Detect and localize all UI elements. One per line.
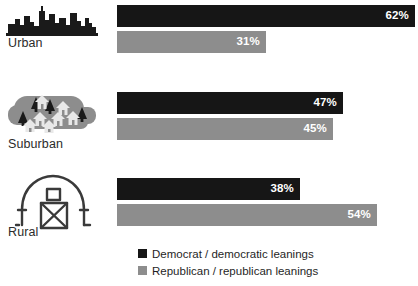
bar-rural-democrat: 38% xyxy=(117,178,300,200)
bar-rural-republican: 54% xyxy=(117,204,377,226)
bar-value-urban-democrat: 62% xyxy=(385,10,415,22)
barn-icon xyxy=(6,173,106,231)
legend-item-democrat: Democrat / democratic leanings xyxy=(138,245,318,262)
legend-label-republican: Republican / republican leanings xyxy=(152,265,318,277)
legend-label-democrat: Democrat / democratic leanings xyxy=(152,248,314,260)
bar-value-rural-democrat: 38% xyxy=(270,183,300,195)
category-label-rural: Rural xyxy=(8,225,38,239)
bar-value-suburban-democrat: 47% xyxy=(313,97,343,109)
legend-swatch-democrat-icon xyxy=(138,249,147,258)
category-label-urban: Urban xyxy=(8,36,43,50)
category-label-suburban: Suburban xyxy=(8,137,63,151)
suburban-houses-icon xyxy=(6,89,106,135)
bar-value-rural-republican: 54% xyxy=(347,209,377,221)
legend-swatch-republican-icon xyxy=(138,266,147,275)
bar-value-urban-republican: 31% xyxy=(236,36,266,48)
grouped-bar-chart: Urban 62% 31% xyxy=(0,0,418,286)
bar-value-suburban-republican: 45% xyxy=(303,123,333,135)
chart-legend: Democrat / democratic leanings Republica… xyxy=(138,245,318,279)
bar-suburban-democrat: 47% xyxy=(117,92,343,114)
bar-urban-democrat: 62% xyxy=(117,5,415,27)
legend-item-republican: Republican / republican leanings xyxy=(138,262,318,279)
bar-suburban-republican: 45% xyxy=(117,118,333,140)
bar-urban-republican: 31% xyxy=(117,31,266,53)
